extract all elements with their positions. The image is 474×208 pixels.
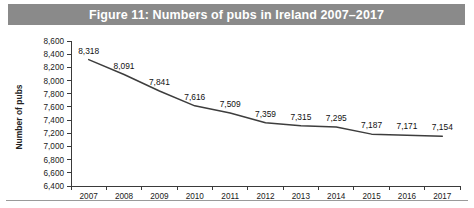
x-tick-label: 2009 — [150, 192, 169, 200]
data-point-label: 7,154 — [432, 122, 453, 132]
y-tick-label: 7,000 — [44, 142, 65, 151]
y-tick-label: 6,600 — [44, 169, 65, 178]
x-tick-label: 2007 — [80, 192, 99, 200]
page-title: Figure 11: Numbers of pubs in Ireland 20… — [89, 8, 384, 22]
data-series-line — [89, 60, 443, 137]
x-tick-label: 2013 — [292, 192, 311, 200]
y-tick-label: 7,400 — [44, 116, 65, 125]
y-tick-label: 8,200 — [44, 63, 65, 72]
x-tick-label: 2016 — [398, 192, 417, 200]
x-tick-label: 2011 — [221, 192, 239, 200]
chart-figure: Number of pubs 8,6008,4008,2008,0007,800… — [0, 26, 474, 200]
bottom-divider — [6, 200, 468, 201]
data-point-label: 7,171 — [396, 121, 417, 131]
data-point-label: 7,315 — [290, 112, 311, 122]
y-tick-label: 8,600 — [44, 37, 65, 46]
x-tick-label: 2010 — [186, 192, 205, 200]
y-tick-label: 8,000 — [44, 77, 65, 86]
y-tick-label: 7,600 — [44, 103, 65, 112]
y-tick-label: 6,800 — [44, 156, 65, 165]
data-point-label: 8,091 — [114, 61, 135, 71]
line-chart-plot: 8,6008,4008,2008,0007,8007,6007,4007,200… — [0, 26, 474, 200]
x-tick-label: 2012 — [256, 192, 275, 200]
x-tick-label: 2014 — [327, 192, 346, 200]
y-tick-label: 7,800 — [44, 90, 65, 99]
data-point-label: 7,187 — [361, 120, 382, 130]
data-point-label: 7,841 — [149, 77, 170, 87]
data-point-label: 7,295 — [326, 113, 347, 123]
x-axis-tick-group: 2007200820092010201120122013201420152016… — [71, 186, 460, 200]
y-tick-label: 6,400 — [44, 182, 65, 191]
y-tick-label: 8,400 — [44, 50, 65, 59]
data-point-label: 7,359 — [255, 109, 276, 119]
y-axis-tick-group: 8,6008,4008,2008,0007,8007,6007,4007,200… — [44, 37, 72, 191]
data-point-label-group: 8,3188,0917,8417,6167,5097,3597,3157,295… — [78, 46, 453, 133]
x-tick-label: 2017 — [433, 192, 452, 200]
x-tick-label: 2008 — [115, 192, 134, 200]
data-point-label: 7,509 — [220, 99, 241, 109]
figure-title-band: Figure 11: Numbers of pubs in Ireland 20… — [8, 4, 465, 25]
data-point-label: 8,318 — [78, 46, 99, 56]
y-tick-label: 7,200 — [44, 129, 65, 138]
data-point-label: 7,616 — [184, 92, 205, 102]
x-tick-label: 2015 — [362, 192, 381, 200]
